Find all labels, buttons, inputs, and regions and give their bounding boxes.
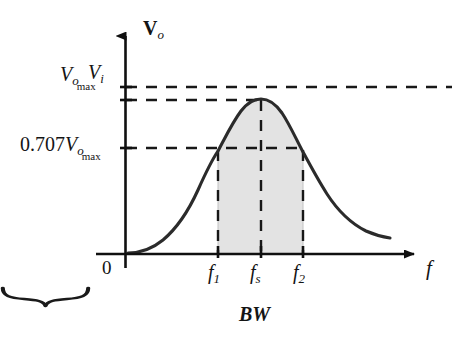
y-axis-label: Vo bbox=[143, 18, 164, 41]
bandwidth-label: BW bbox=[239, 304, 270, 324]
x-tick-label-f2: f2 bbox=[293, 262, 305, 285]
x-axis-label: f bbox=[426, 258, 432, 279]
half-sub-max: max bbox=[82, 150, 101, 162]
y-tick-label-half-power: 0.707Vomax bbox=[20, 134, 101, 162]
f2-sub: 2 bbox=[299, 271, 306, 286]
x-tick-label-f1: f1 bbox=[208, 262, 220, 285]
half-prefix: 0.707 bbox=[20, 133, 65, 155]
y-axis-label-main: V bbox=[143, 17, 157, 39]
y-axis-label-sub: o bbox=[157, 27, 164, 42]
y-tick-label-vomax: Vomax bbox=[60, 64, 96, 92]
bandwidth-brace bbox=[3, 288, 88, 306]
half-main: V bbox=[65, 133, 77, 155]
vomax-sub-max: max bbox=[77, 80, 96, 92]
vi-sub: i bbox=[100, 71, 104, 86]
frequency-response-figure: Vo f 0 Vi Vomax 0.707Vomax f1 fs f2 BW bbox=[0, 0, 460, 337]
figure-canvas bbox=[0, 0, 460, 337]
origin-label: 0 bbox=[102, 258, 112, 277]
x-tick-label-fs: fs bbox=[250, 262, 261, 285]
vomax-main: V bbox=[60, 63, 72, 85]
fs-sub: s bbox=[256, 271, 261, 286]
f1-sub: 1 bbox=[214, 271, 221, 286]
